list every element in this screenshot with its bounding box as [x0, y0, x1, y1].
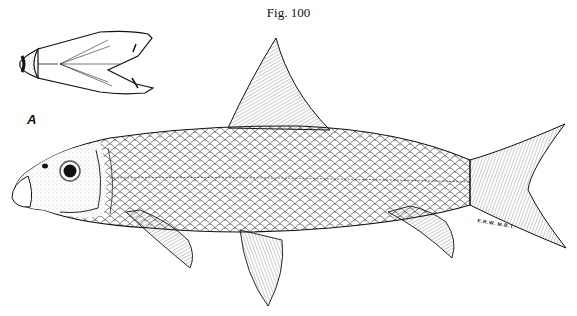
inset-label: A [27, 112, 36, 127]
fish-illustration [0, 0, 577, 316]
inset-head-ventral [20, 31, 153, 93]
snout [12, 176, 32, 207]
dorsal-fin [228, 38, 330, 130]
nostril [42, 164, 48, 169]
pelvic-fin [240, 230, 283, 306]
caudal-fin [470, 124, 566, 248]
